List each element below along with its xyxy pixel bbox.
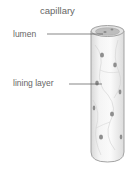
- capillary-tube: [91, 31, 124, 162]
- lumen-opening: [91, 26, 124, 37]
- capillary-illustration: [0, 0, 131, 194]
